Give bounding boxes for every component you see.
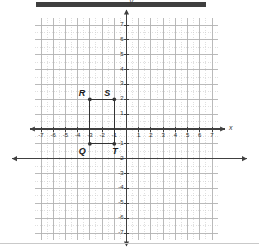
x-tick-label: 4 xyxy=(171,132,179,138)
x-tick-label: -4 xyxy=(74,132,82,138)
point-label-r: R xyxy=(79,88,86,98)
x-tick-label: -2 xyxy=(98,132,106,138)
x-tick-label: 6 xyxy=(196,132,204,138)
y-tick-label: 5 xyxy=(115,51,124,57)
y-tick-label: 1 xyxy=(115,110,124,116)
plot-point-q xyxy=(88,142,92,146)
point-label-t: T xyxy=(112,146,118,156)
y-tick-label: -4 xyxy=(115,184,124,190)
stray-arrow-left xyxy=(12,156,17,161)
y-tick-label: -6 xyxy=(115,214,124,220)
plot-point-r xyxy=(88,97,92,101)
y-tick-label: 2 xyxy=(115,95,124,101)
figure-canvas: -7-6-5-4-3-2-112345677654321-1-2-3-4-5-6… xyxy=(0,0,259,249)
x-tick-label: 7 xyxy=(208,132,216,138)
y-axis-label: y xyxy=(130,0,134,5)
y-tick-label: 4 xyxy=(115,66,124,72)
footer-rule xyxy=(0,243,259,244)
x-axis-label: x xyxy=(229,124,233,131)
y-tick-label: -7 xyxy=(115,229,124,235)
y-tick-label: 7 xyxy=(115,21,124,27)
stray-arrow-right xyxy=(242,156,247,161)
y-tick-label: 3 xyxy=(115,80,124,86)
x-tick-label: -3 xyxy=(86,132,94,138)
x-tick-label: 1 xyxy=(135,132,143,138)
y-tick-label: -3 xyxy=(115,170,124,176)
x-axis-arrow-right xyxy=(220,126,225,131)
x-tick-label: -1 xyxy=(110,132,118,138)
point-label-q: Q xyxy=(79,146,86,156)
coordinate-plane-svg xyxy=(0,0,259,249)
x-tick-label: 3 xyxy=(159,132,167,138)
y-tick-label: 6 xyxy=(115,36,124,42)
x-axis-arrow-left xyxy=(30,126,35,131)
point-label-s: S xyxy=(104,88,110,98)
y-tick-label: -5 xyxy=(115,199,124,205)
x-tick-label: -7 xyxy=(37,132,45,138)
x-tick-label: -6 xyxy=(49,132,57,138)
x-tick-label: 2 xyxy=(147,132,155,138)
x-tick-label: 5 xyxy=(184,132,192,138)
x-tick-label: -5 xyxy=(61,132,69,138)
y-axis-arrow-up xyxy=(124,10,129,15)
